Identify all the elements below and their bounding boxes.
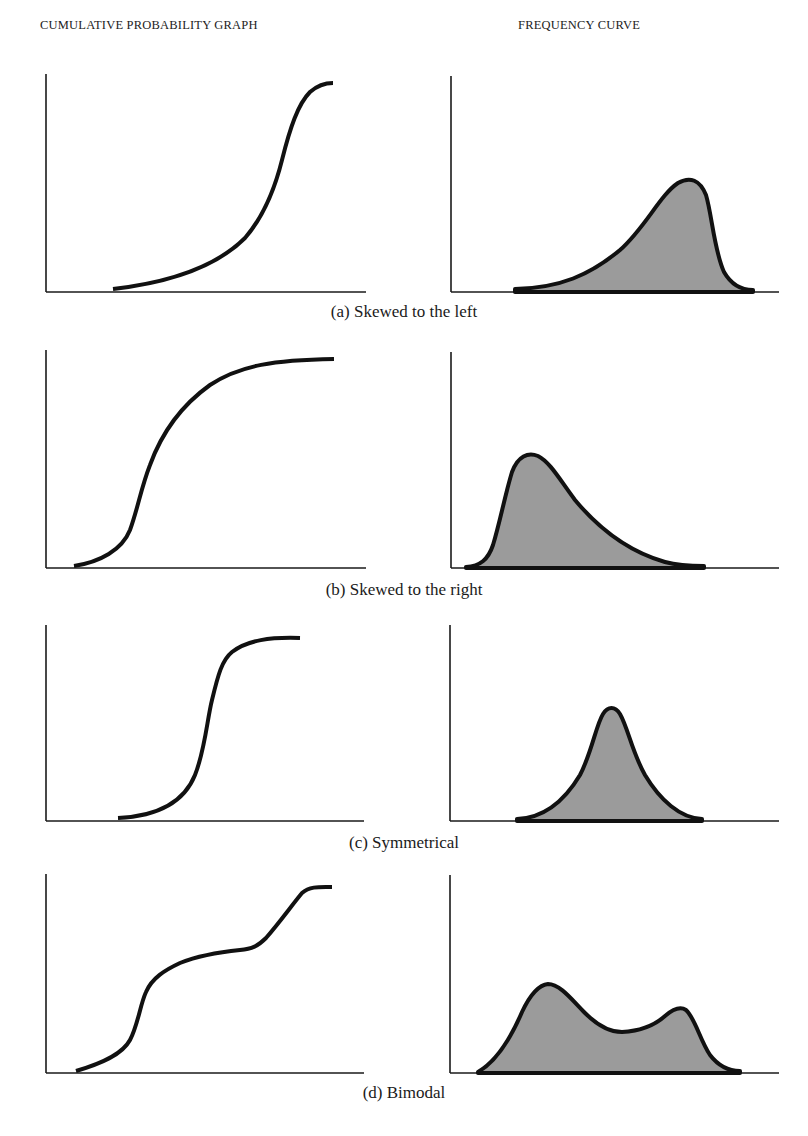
panel-a-caption: (a) Skewed to the left (0, 302, 808, 322)
cumulative-curve (113, 83, 333, 289)
panel-d-cumulative-graph (46, 874, 364, 1073)
cumulative-curve (76, 887, 332, 1071)
frequency-area (478, 984, 740, 1073)
frequency-area (517, 708, 702, 821)
panel-c-frequency-curve (450, 625, 779, 821)
panel-b-frequency-curve (451, 352, 779, 568)
panel-c-cumulative-graph (46, 625, 364, 821)
panel-d-caption: (d) Bimodal (0, 1083, 808, 1103)
frequency-area (515, 180, 753, 292)
panel-b-caption: (b) Skewed to the right (0, 580, 808, 600)
panel-c-caption: (c) Symmetrical (0, 833, 808, 853)
cumulative-curve (118, 638, 300, 818)
cumulative-curve (74, 359, 334, 566)
panel-b-cumulative-graph (46, 350, 366, 568)
panel-d-frequency-curve (450, 875, 779, 1073)
figure-canvas (0, 0, 808, 1136)
panel-a-frequency-curve (451, 76, 779, 292)
frequency-area (466, 455, 704, 568)
panel-a-cumulative-graph (46, 74, 366, 292)
